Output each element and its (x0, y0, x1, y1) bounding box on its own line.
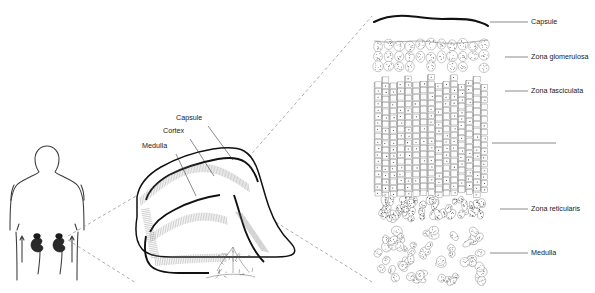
fasciculata-column (397, 82, 404, 196)
zona-reticularis-zone (377, 194, 486, 224)
fasciculata-column (435, 84, 442, 198)
medulla-cell-cluster (388, 264, 397, 274)
glomerulosa-cluster (395, 51, 404, 61)
medulla-cell-cluster (449, 230, 460, 242)
fasciculata-column (390, 83, 397, 197)
glomerulosa-cluster (469, 42, 478, 51)
medulla-cell-cluster (410, 242, 417, 249)
glomerulosa-cluster (448, 40, 457, 51)
glomerulosa-cluster (437, 51, 446, 63)
glomerulosa-cluster (395, 62, 404, 71)
adrenal-gland-panel (136, 148, 295, 279)
fasciculata-column (443, 82, 450, 196)
glomerulosa-cluster (479, 63, 489, 72)
zona-glomerulosa-zone (373, 38, 489, 72)
arm-lines (10, 200, 84, 230)
ureter (38, 251, 40, 274)
fasciculata-column (374, 82, 381, 196)
glomerulosa-cluster (405, 41, 415, 52)
gland-label-capsule: Capsule (176, 114, 202, 121)
gland-outer-capsule (136, 148, 295, 257)
glomerulosa-cluster (447, 61, 457, 72)
glomerulosa-cluster (373, 61, 383, 72)
gland-label-medulla: Medulla (142, 142, 167, 149)
fasciculata-column (450, 75, 457, 196)
side-lines (16, 232, 78, 280)
torso-outline (11, 146, 83, 200)
medulla-zone (372, 225, 488, 287)
glomerulosa-cluster (468, 51, 478, 60)
kidney-unit-right (53, 233, 65, 274)
glomerulosa-cluster (384, 61, 394, 71)
fasciculata-column (458, 84, 465, 192)
histology-label-zona-reticularis: Zona reticularis (531, 205, 580, 212)
glomerulosa-cluster (416, 39, 425, 49)
histology-panel (372, 16, 489, 287)
histology-label-capsule: Capsule (531, 18, 557, 25)
histology-label-zona-fasciculata: Zona fasciculata (531, 87, 583, 94)
medulla-cell-cluster (381, 255, 392, 266)
human-body-panel (10, 146, 84, 280)
zona-fasciculata-zone (374, 75, 487, 198)
histology-label-zona-glomerulosa: Zona glomerulosa (531, 53, 589, 60)
arrow-left (20, 236, 24, 262)
glomerulosa-cluster (405, 61, 414, 72)
kidney (31, 238, 43, 252)
gland-label-cortex: Cortex (163, 127, 184, 134)
fasciculata-column (405, 76, 412, 197)
glomerulosa-cluster (479, 50, 489, 60)
arrow-right (70, 236, 74, 262)
gland-to-histology-upper (241, 16, 372, 166)
medulla-floor (206, 274, 252, 278)
glomerulosa-cluster (458, 51, 467, 61)
adrenal-gland (34, 233, 41, 238)
glomerulosa-cluster (405, 52, 414, 62)
glomerulosa-cluster (394, 41, 405, 51)
glomerulosa-cluster (457, 38, 468, 50)
glomerulosa-cluster (426, 38, 437, 50)
fasciculata-column (412, 82, 419, 196)
kidney (53, 238, 65, 252)
fasciculata-column (473, 77, 480, 198)
glomerulosa-cluster (416, 51, 425, 62)
body-to-gland-lower (68, 240, 136, 283)
waist-ticks (17, 224, 77, 230)
body-to-gland-upper (68, 196, 136, 236)
fasciculata-column (382, 77, 389, 198)
kidney-unit-left (31, 233, 43, 274)
histology-label-medulla: Medulla (531, 249, 556, 256)
fasciculata-column (481, 85, 488, 193)
glomerulosa-cluster (374, 51, 383, 61)
glomerulosa-cluster (384, 51, 393, 62)
glomerulosa-cluster (458, 62, 467, 71)
fasciculata-column (466, 80, 473, 194)
medulla-cell-cluster (462, 238, 475, 249)
fasciculata-column (428, 75, 435, 196)
glomerulosa-cluster (437, 39, 446, 49)
reticularis-cord (452, 198, 457, 205)
glomerulosa-cluster (384, 39, 393, 49)
adrenal-gland (56, 233, 63, 238)
illustration-artwork (0, 0, 595, 293)
medulla-cell-cluster (376, 263, 387, 274)
glomerulosa-cluster (447, 51, 458, 62)
medulla-cell-cluster (475, 249, 485, 257)
glomerulosa-cluster (374, 41, 383, 52)
histology-capsule-band (374, 16, 488, 26)
shoulder-lines (11, 185, 84, 200)
fasciculata-column (420, 81, 427, 195)
figure-canvas: Capsule Cortex Medulla Capsule Zona glom… (0, 0, 595, 293)
glomerulosa-cluster (427, 61, 436, 71)
ureter (60, 251, 62, 274)
